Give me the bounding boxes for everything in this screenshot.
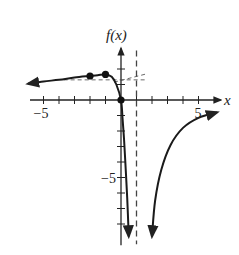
x-axis-label: x xyxy=(223,92,231,108)
asymptotes xyxy=(64,50,148,244)
x-tick-label: −5 xyxy=(34,106,49,121)
y-axis-label: f(x) xyxy=(106,27,127,44)
point-marker xyxy=(117,96,124,103)
point-marker xyxy=(102,71,109,78)
axis-labels: f(x) x −55−5 xyxy=(34,27,232,186)
point-marker xyxy=(86,72,93,79)
x-tick-label: 5 xyxy=(195,106,202,121)
right-branch xyxy=(152,112,217,236)
slant-asymptote xyxy=(114,74,147,83)
y-tick-label: −5 xyxy=(101,171,116,186)
function-graph: f(x) x −55−5 xyxy=(0,0,239,255)
